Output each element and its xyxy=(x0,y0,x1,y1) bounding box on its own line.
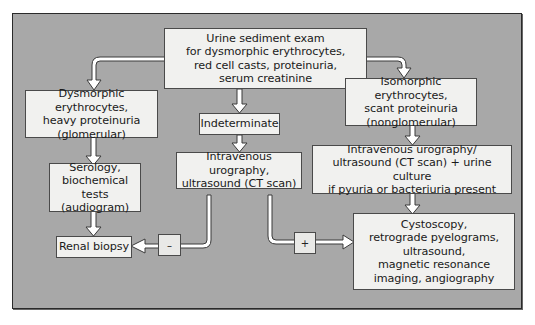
node-nonglomerular: Isomorphic erythrocytes, scant proteinur… xyxy=(345,78,477,126)
node-serology: Serology, biochemical tests (audiogram) xyxy=(49,163,141,212)
node-renal-biopsy: Renal biopsy xyxy=(56,236,132,258)
node-glomerular: Dysmorphic erythrocytes, heavy proteinur… xyxy=(25,90,158,138)
node-iv-urography-right: Intravenous urography/ ultrasound (CT sc… xyxy=(312,145,512,194)
edge-label-negative: – xyxy=(158,234,181,256)
node-cystoscopy: Cystoscopy, retrograde pyelograms, ultra… xyxy=(353,213,515,290)
node-urine-sediment-exam: Urine sediment exam for dysmorphic eryth… xyxy=(164,28,367,89)
node-indeterminate: Indeterminate xyxy=(199,113,280,135)
node-iv-urography-mid: Intravenous urography, ultrasound (CT sc… xyxy=(176,152,302,189)
edge-label-positive: + xyxy=(294,232,316,254)
